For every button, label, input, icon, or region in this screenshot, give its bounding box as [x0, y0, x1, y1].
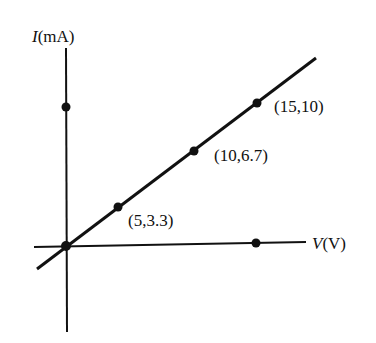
- y-axis: [66, 48, 67, 332]
- point-label-3: (15,10): [274, 98, 324, 115]
- x-axis: [34, 242, 306, 247]
- point-label-2: (10,6.7): [214, 147, 268, 164]
- iv-line: [37, 58, 316, 269]
- x-axis-var: V: [312, 234, 322, 253]
- x-axis-unit: (V): [322, 234, 346, 253]
- point-dot-1: [114, 203, 123, 212]
- iv-diagram: I(mA) V(V) (5,3.3) (10,6.7) (15,10): [0, 0, 376, 343]
- x-axis-dot: [252, 239, 261, 248]
- y-axis-unit: (mA): [38, 27, 75, 46]
- point-dot-3: [253, 99, 262, 108]
- y-axis-label: I(mA): [32, 28, 75, 45]
- point-dot-2: [190, 147, 199, 156]
- diagram-canvas: [0, 0, 376, 343]
- y-axis-dot: [62, 103, 71, 112]
- point-label-1: (5,3.3): [128, 212, 173, 229]
- x-axis-label: V(V): [312, 235, 346, 252]
- origin-dot: [61, 241, 71, 251]
